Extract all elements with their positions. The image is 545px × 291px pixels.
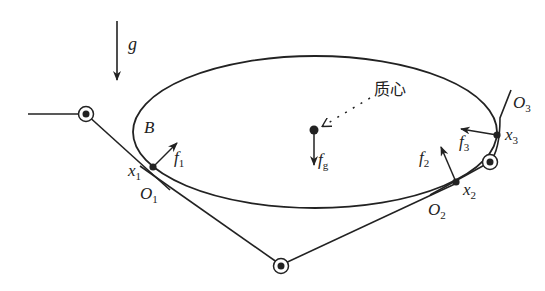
right-joint: [483, 155, 498, 170]
diagram-canvas: g B 质心 fg f1 x1 O1 f2 x2 O2: [0, 0, 545, 291]
contact-point-label-2: x2: [462, 180, 476, 201]
frame-label-1: O1: [140, 184, 158, 205]
gravity-force-label: fg: [318, 150, 329, 171]
body-label: B: [144, 118, 155, 137]
contact-point-label-3: x3: [504, 125, 519, 146]
finger-links: [28, 90, 511, 265]
gravity-label: g: [128, 34, 137, 54]
frame-label-3: O3: [513, 93, 531, 114]
contact-point-label-1: x1: [127, 161, 141, 182]
force-label-1: f1: [174, 148, 184, 169]
force-arrow-2: [441, 147, 456, 182]
force-label-3: f3: [459, 132, 470, 153]
force-arrow-3: [461, 129, 497, 135]
force-label-2: f2: [419, 148, 429, 169]
diagram-svg: g B 质心 fg f1 x1 O1 f2 x2 O2: [0, 0, 545, 291]
frame-label-2: O2: [428, 200, 446, 221]
left-joint: [79, 107, 94, 122]
center-of-mass-label: 质心: [374, 80, 406, 99]
com-pointer-arrow: [323, 98, 370, 126]
bottom-joint: [274, 259, 289, 274]
